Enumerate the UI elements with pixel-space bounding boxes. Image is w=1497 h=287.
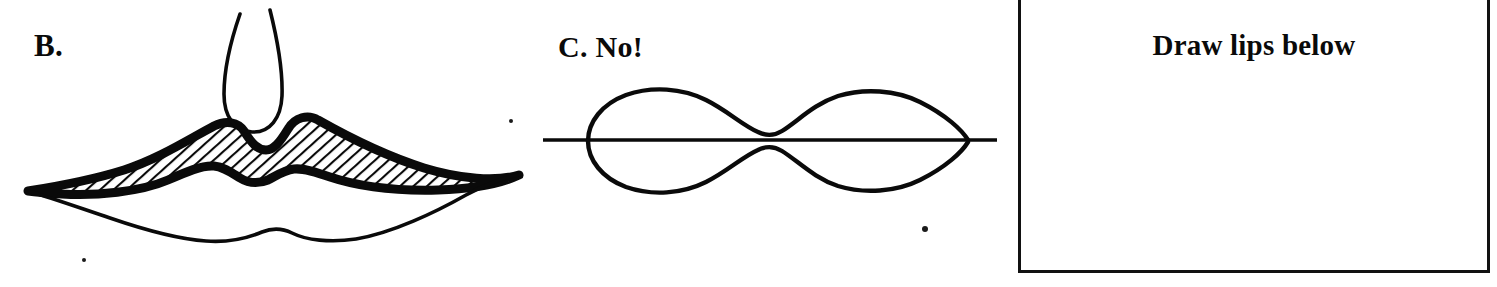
panel-drawing-area: Draw lips below (1010, 0, 1497, 287)
panel-b-correct-example: B. (0, 0, 530, 287)
incorrect-lips-drawing (530, 0, 1010, 287)
correct-lips-drawing (0, 0, 530, 287)
print-speck (82, 258, 86, 262)
drawing-area-title: Draw lips below (1021, 29, 1487, 62)
lower-contour (588, 141, 968, 193)
upper-lip-hatching (28, 117, 519, 194)
panel-c-incorrect-example: C. No! (530, 0, 1010, 287)
blank-drawing-area[interactable]: Draw lips below (1018, 0, 1490, 273)
philtrum-outline (224, 10, 282, 132)
print-speck (509, 119, 513, 123)
upper-contour (588, 89, 968, 141)
print-speck (922, 226, 928, 232)
worksheet-page: B. (0, 0, 1497, 287)
